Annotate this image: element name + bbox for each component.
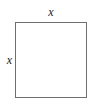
left-side-length-label: x: [4, 54, 15, 66]
top-side-length-label: x: [0, 6, 95, 18]
square-shape: [15, 22, 87, 98]
figure-canvas: x x: [0, 0, 95, 108]
